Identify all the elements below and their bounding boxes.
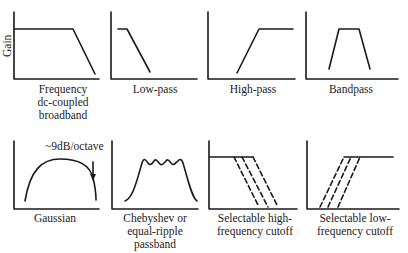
panel-bandpass [306, 12, 398, 79]
label-line: Low-pass [120, 83, 190, 96]
panel-label-dc-coupled-broadband: Frequency dc-coupled broadband [28, 83, 98, 122]
response-curve [25, 159, 96, 201]
label-line: frequency cutoff [310, 225, 400, 238]
response-curve [237, 29, 293, 73]
panel-label-low-pass: Low-pass [120, 83, 190, 96]
label-line: frequency cutoff [210, 225, 300, 238]
axes [306, 12, 398, 79]
arrowhead-icon [90, 174, 96, 181]
panel-high-pass [208, 12, 295, 79]
label-line: Gaussian [20, 212, 90, 225]
panel-dc-coupled-broadband [14, 12, 99, 79]
response-curve [14, 29, 95, 74]
label-line: broadband [28, 109, 98, 122]
panel-label-selectable-low-frequency-cutoff: Selectable low- frequency cutoff [310, 212, 400, 238]
panel-selectable-low-frequency-cutoff [307, 141, 399, 209]
panel-label-bandpass: Bandpass [316, 83, 386, 96]
cutoff-curve-3 [338, 157, 360, 207]
label-line: Selectable high- [210, 212, 300, 225]
label-line: Selectable low- [310, 212, 400, 225]
axes [307, 141, 399, 209]
axes [111, 12, 197, 79]
response-curve [118, 29, 150, 72]
panel-label-gaussian: Gaussian [20, 212, 90, 225]
panel-label-chebyshev: Chebyshev or equal-ripple passband [115, 212, 195, 251]
panel-chebyshev [112, 141, 198, 209]
label-line: Chebyshev or [115, 212, 195, 225]
axes [112, 141, 198, 209]
label-line: High-pass [218, 83, 288, 96]
label-line: passband [115, 238, 195, 251]
y-axis-label: Gain [1, 35, 13, 57]
label-line: Frequency [28, 83, 98, 96]
panel-label-selectable-high-frequency-cutoff: Selectable high- frequency cutoff [210, 212, 300, 238]
label-line: Bandpass [316, 83, 386, 96]
cutoff-curve-3 [253, 157, 278, 207]
panel-label-high-pass: High-pass [218, 83, 288, 96]
panel-selectable-high-frequency-cutoff [209, 141, 297, 209]
response-curve [329, 29, 370, 69]
response-curve [125, 160, 197, 201]
label-line: dc-coupled [28, 96, 98, 109]
panel-low-pass [111, 12, 197, 79]
axes [209, 141, 297, 209]
label-line: equal-ripple [115, 225, 195, 238]
axes [14, 12, 99, 79]
gaussian-rolloff-annotation: ~9dB/octave [45, 140, 104, 152]
